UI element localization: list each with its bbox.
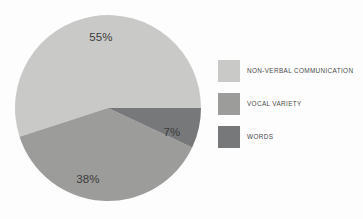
legend-swatch-words — [218, 126, 240, 148]
legend-item-non-verbal-communication[interactable]: NON-VERBAL COMMUNICATION — [218, 60, 363, 82]
legend-label-vocal-variety: VOCAL VARIETY — [247, 101, 302, 107]
legend-item-vocal-variety[interactable]: VOCAL VARIETY — [218, 93, 363, 115]
legend-swatch-vocal-variety — [218, 93, 240, 115]
slice-label-words: 7% — [164, 127, 181, 139]
legend-label-non-verbal-communication: NON-VERBAL COMMUNICATION — [247, 68, 353, 74]
slice-label-non-verbal-communication: 55% — [89, 32, 112, 44]
legend-swatch-non-verbal-communication — [218, 60, 240, 82]
slice-label-vocal-variety: 38% — [76, 174, 99, 186]
chart-legend: NON-VERBAL COMMUNICATIONVOCAL VARIETYWOR… — [218, 60, 363, 159]
pie-chart-figure: 55% 38% 7% NON-VERBAL COMMUNICATIONVOCAL… — [0, 0, 363, 219]
legend-item-words[interactable]: WORDS — [218, 126, 363, 148]
pie-plot-area: 55% 38% 7% — [0, 0, 220, 219]
legend-label-words: WORDS — [247, 134, 273, 140]
